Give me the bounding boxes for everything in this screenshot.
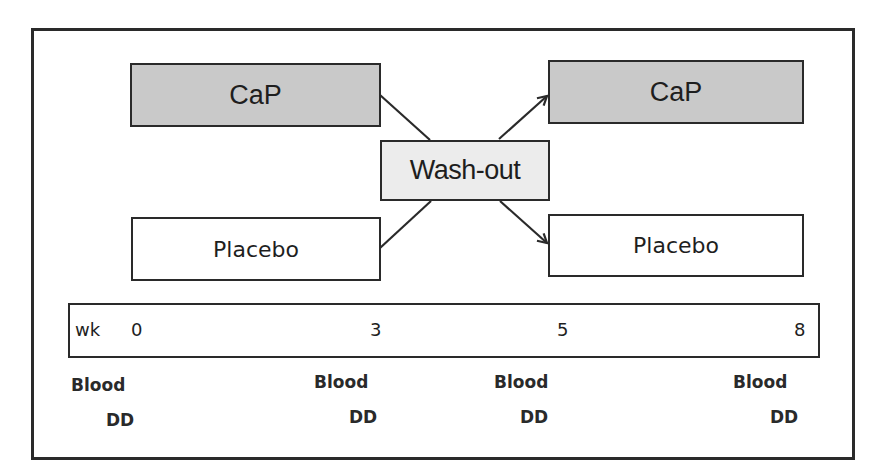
measurement-blood-wk5: Blood	[494, 372, 548, 392]
cap-left-label: CaP	[229, 80, 282, 111]
measurement-dd-wk5: DD	[520, 407, 548, 427]
line-cap-to-washout	[380, 95, 430, 140]
measurement-dd-wk8: DD	[770, 407, 798, 427]
cap-box-left: CaP	[130, 63, 381, 127]
washout-box: Wash-out	[380, 140, 550, 201]
timeline-unit-label: wk	[75, 319, 100, 340]
placebo-box-left: Placebo	[131, 217, 381, 281]
washout-label: Wash-out	[410, 155, 521, 186]
measurement-dd-wk3: DD	[349, 407, 377, 427]
timeline-tick-5: 5	[557, 319, 568, 340]
measurement-blood-wk8: Blood	[733, 372, 787, 392]
timeline-tick-0: 0	[131, 319, 142, 340]
measurement-blood-wk0: Blood	[71, 375, 125, 395]
timeline-tick-8: 8	[794, 319, 805, 340]
cap-box-right: CaP	[548, 60, 804, 124]
measurement-blood-wk3: Blood	[314, 372, 368, 392]
placebo-box-right: Placebo	[548, 214, 804, 277]
arrow-washout-to-cap	[499, 96, 547, 139]
arrow-washout-to-placebo	[500, 201, 547, 243]
timeline-bar: wk 0 3 5 8	[68, 303, 820, 358]
timeline-tick-3: 3	[370, 319, 381, 340]
placebo-left-label: Placebo	[213, 237, 299, 262]
cap-right-label: CaP	[650, 77, 703, 108]
measurement-dd-wk0: DD	[106, 410, 134, 430]
line-placebo-to-washout	[380, 201, 431, 248]
placebo-right-label: Placebo	[633, 233, 719, 258]
